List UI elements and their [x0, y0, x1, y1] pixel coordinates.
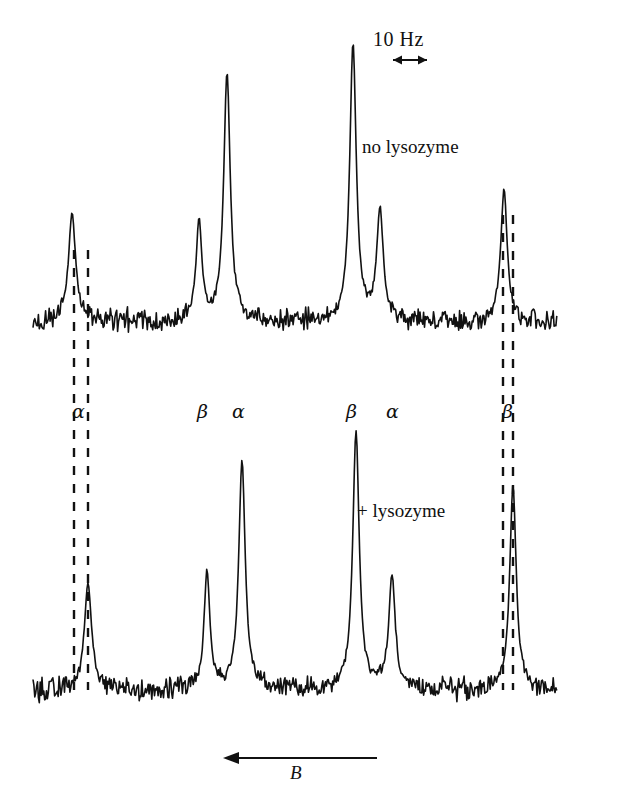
spectrum-plot [0, 0, 625, 801]
trace-label-no-lysozyme: no lysozyme [362, 136, 459, 158]
peak-label-alpha-4: α [386, 400, 399, 422]
trace-no-lysozyme [33, 45, 557, 332]
scale-bar-label: 10 Hz [373, 28, 424, 51]
scale-bar-10hz [393, 56, 427, 65]
peak-label-alpha-2: α [232, 400, 245, 422]
peak-label-beta-1: β [197, 400, 208, 422]
peak-label-beta-5: β [502, 400, 513, 422]
scale-bar-arrow-right-icon [418, 56, 427, 65]
peak-label-alpha-0: α [72, 400, 85, 422]
scale-bar-arrow-left-icon [393, 56, 402, 65]
trace-path-bottom [33, 431, 557, 703]
trace-path-top [33, 45, 557, 332]
trace-label-plus-lysozyme: + lysozyme [357, 500, 445, 522]
nmr-figure: 10 Hz no lysozyme + lysozyme B αβαβαβ [0, 0, 625, 801]
field-arrow-head-icon [223, 752, 239, 764]
trace-plus-lysozyme [33, 431, 557, 703]
shift-guide-lines [74, 215, 513, 690]
peak-label-beta-3: β [346, 400, 357, 422]
field-axis-label: B [290, 762, 302, 784]
